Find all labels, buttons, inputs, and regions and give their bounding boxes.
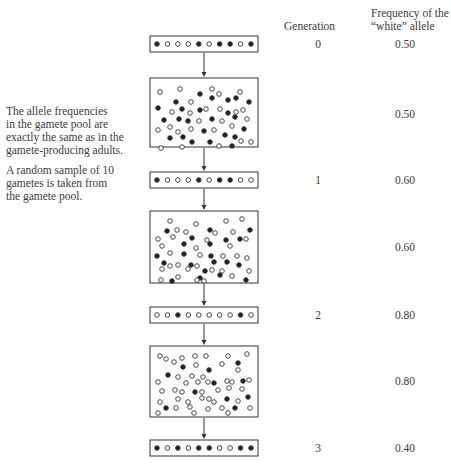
- black-allele-dot: [181, 365, 186, 370]
- black-allele-dot: [230, 144, 235, 149]
- white-allele-dot: [241, 108, 246, 113]
- black-allele-dot: [218, 273, 223, 278]
- white-allele-dot: [210, 268, 215, 273]
- black-allele-dot: [182, 242, 187, 247]
- white-allele-dot: [186, 178, 191, 183]
- white-allele-dot: [245, 117, 250, 122]
- white-allele-dot: [212, 128, 217, 133]
- black-allele-dot: [164, 406, 169, 411]
- white-allele-dot: [230, 274, 235, 279]
- white-allele-dot: [231, 230, 236, 235]
- frequency-value: 0.50: [375, 108, 435, 121]
- white-allele-dot: [176, 397, 181, 402]
- white-allele-dot: [189, 127, 194, 132]
- white-allele-dot: [156, 380, 161, 385]
- black-allele-dot: [238, 313, 243, 318]
- white-allele-dot: [176, 263, 181, 268]
- black-allele-dot: [198, 108, 203, 113]
- white-allele-dot: [217, 144, 222, 149]
- white-allele-dot: [225, 379, 230, 384]
- white-allele-dot: [207, 313, 212, 318]
- white-allele-dot: [238, 90, 243, 95]
- white-allele-dot: [200, 390, 205, 395]
- sample-annotation-line: the gamete pool.: [6, 190, 114, 203]
- black-allele-dot: [228, 178, 233, 183]
- white-allele-dot: [188, 111, 193, 116]
- black-allele-dot: [207, 446, 212, 451]
- white-allele-dot: [190, 374, 195, 379]
- white-allele-dot: [226, 354, 231, 359]
- white-allele-dot: [186, 42, 191, 47]
- black-allele-dot: [217, 178, 222, 183]
- white-allele-dot: [165, 313, 170, 318]
- white-allele-dot: [173, 388, 178, 393]
- black-allele-dot: [162, 118, 167, 123]
- black-allele-dot: [170, 279, 175, 284]
- white-allele-dot: [245, 352, 250, 357]
- white-allele-dot: [194, 222, 199, 227]
- gamete-pool-box: [150, 78, 258, 147]
- white-allele-dot: [204, 354, 209, 359]
- black-allele-dot: [196, 446, 201, 451]
- white-allele-dot: [248, 406, 253, 411]
- black-allele-dot: [202, 129, 207, 134]
- white-allele-dot: [156, 237, 161, 242]
- white-allele-dot: [160, 244, 165, 249]
- black-allele-dot: [233, 406, 238, 411]
- white-allele-dot: [228, 244, 233, 249]
- white-allele-dot: [236, 399, 241, 404]
- white-allele-dot: [168, 219, 173, 224]
- black-allele-dot: [166, 373, 171, 378]
- white-allele-dot: [212, 400, 217, 405]
- black-allele-dot: [210, 117, 215, 122]
- generation-value: 3: [288, 442, 348, 455]
- white-allele-dot: [171, 235, 176, 240]
- arrow-head-icon: [202, 205, 207, 210]
- arrow-head-icon: [202, 166, 207, 171]
- white-allele-dot: [217, 313, 222, 318]
- white-allele-dot: [207, 42, 212, 47]
- white-allele-dot: [240, 217, 245, 222]
- black-allele-dot: [241, 379, 246, 384]
- black-allele-dot: [242, 127, 247, 132]
- white-allele-dot: [204, 107, 209, 112]
- white-allele-dot: [226, 411, 231, 416]
- black-allele-dot: [226, 98, 231, 103]
- black-allele-dot: [155, 178, 160, 183]
- white-allele-dot: [180, 356, 185, 361]
- black-allele-dot: [208, 242, 213, 247]
- white-allele-dot: [168, 125, 173, 130]
- black-allele-dot: [208, 228, 213, 233]
- white-allele-dot: [207, 178, 212, 183]
- white-allele-dot: [198, 253, 203, 258]
- black-allele-dot: [246, 395, 251, 400]
- generation-header: Generation: [284, 20, 335, 33]
- white-allele-dot: [220, 119, 225, 124]
- black-allele-dot: [196, 178, 201, 183]
- white-allele-dot: [217, 92, 222, 97]
- white-allele-dot: [189, 100, 194, 105]
- arrow-head-icon: [202, 72, 207, 77]
- white-allele-dot: [159, 146, 164, 151]
- black-allele-dot: [238, 237, 243, 242]
- white-allele-dot: [176, 275, 181, 280]
- black-allele-dot: [186, 119, 191, 124]
- black-allele-dot: [217, 42, 222, 47]
- white-allele-dot: [193, 354, 198, 359]
- black-allele-dot: [223, 133, 228, 138]
- black-allele-dot: [176, 313, 181, 318]
- black-allele-dot: [181, 135, 186, 140]
- white-allele-dot: [213, 231, 218, 236]
- sample-annotation-line: A random sample of 10: [6, 164, 114, 177]
- white-allele-dot: [180, 390, 185, 395]
- white-allele-dot: [164, 357, 169, 362]
- black-allele-dot: [177, 117, 182, 122]
- black-allele-dot: [237, 263, 242, 268]
- white-allele-dot: [195, 278, 200, 283]
- white-allele-dot: [176, 375, 181, 380]
- white-allele-dot: [168, 264, 173, 269]
- genetic-drift-diagram: [0, 0, 451, 465]
- white-allele-dot: [218, 107, 223, 112]
- white-allele-dot: [176, 130, 181, 135]
- white-allele-dot: [216, 388, 221, 393]
